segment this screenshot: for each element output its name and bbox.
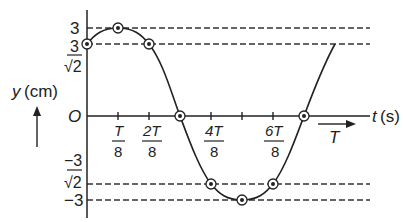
y-tick-neg-3: −3	[64, 191, 83, 210]
svg-text:2T: 2T	[142, 122, 162, 139]
origin-label: O	[68, 107, 81, 126]
x-tick-labels: T 8 2T 8 4T 8 6T 8	[112, 122, 284, 160]
sine-wave-chart: 3 3 √2 O −3 √2 −3 y (cm) T 8 2T 8 4T 8 6…	[0, 0, 403, 222]
y-tick-neg-3-over-root2-num: −3	[64, 152, 82, 169]
y-tick-3: 3	[70, 19, 79, 38]
reference-lines	[87, 28, 370, 200]
svg-text:8: 8	[210, 143, 218, 160]
svg-text:6T: 6T	[265, 122, 284, 139]
svg-text:T: T	[114, 122, 125, 139]
up-arrow-icon	[33, 106, 41, 116]
x-axis-label-unit: (s)	[380, 107, 400, 126]
svg-text:8: 8	[114, 143, 122, 160]
right-arrow-icon	[346, 120, 356, 128]
y-axis-label-var: y	[11, 82, 22, 101]
svg-text:8: 8	[148, 143, 156, 160]
period-label: T	[329, 128, 341, 147]
y-tick-3-over-root2-den: √2	[64, 58, 82, 75]
y-tick-3-over-root2-num: 3	[70, 38, 79, 55]
svg-text:8: 8	[271, 143, 279, 160]
svg-text:4T: 4T	[205, 122, 224, 139]
marked-points	[82, 23, 309, 205]
x-axis-label-var: t	[372, 107, 378, 126]
y-tick-neg-3-over-root2-den: √2	[64, 174, 82, 191]
y-axis-label-unit: (cm)	[24, 82, 58, 101]
